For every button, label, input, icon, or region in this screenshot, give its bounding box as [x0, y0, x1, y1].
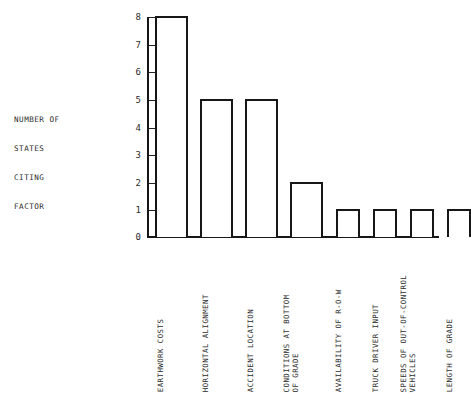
- y-tick-label-4: 4: [136, 123, 141, 132]
- bar-truck-driver-input: [373, 209, 397, 237]
- x-label-line-2: VEHICLES: [408, 274, 417, 392]
- y-tick-label-3: 3: [136, 151, 141, 160]
- x-label-truck-driver-input: TRUCK DRIVER INPUT: [371, 304, 380, 392]
- x-label-line: CONDITIONS AT BOTTOM: [282, 294, 291, 392]
- y-axis-label-line-3: CITING: [14, 173, 100, 183]
- y-axis-label: NUMBER OF STATES CITING FACTOR: [14, 96, 100, 230]
- bar-earthwork-costs: [155, 16, 188, 237]
- x-label-conditions-at-bottom-of-grade: CONDITIONS AT BOTTOM OF GRADE: [282, 294, 300, 392]
- y-tick-label-0: 0: [136, 233, 141, 242]
- y-tick-label-5: 5: [136, 95, 141, 104]
- y-tick-label-2: 2: [136, 178, 141, 187]
- x-label-line: EARTHWORK COSTS: [156, 319, 165, 393]
- bar-availability-of-row: [336, 209, 360, 237]
- x-label-accident-location: ACCIDENT LOCATION: [246, 309, 255, 392]
- y-tick-label-8: 8: [136, 13, 141, 22]
- bar-horizontal-alignment: [200, 99, 233, 237]
- y-axis-label-line-2: STATES: [14, 144, 100, 154]
- y-axis-label-line-4: FACTOR: [14, 202, 100, 212]
- x-axis-labels: EARTHWORK COSTS HORIZONTAL ALIGNMENT ACC…: [147, 240, 447, 392]
- x-label-earthwork-costs: EARTHWORK COSTS: [156, 319, 165, 393]
- x-label-line: TRUCK DRIVER INPUT: [371, 304, 380, 392]
- bar-speeds-of-out-of-control-vehicles: [410, 209, 434, 237]
- x-label-speeds-of-out-of-control-vehicles: SPEEDS OF OUT-OF-CONTROL VEHICLES: [399, 274, 417, 392]
- x-label-availability-of-row: AVAILABILITY OF R-O-W: [334, 289, 343, 392]
- x-label-line: LENGTH OF GRADE: [445, 319, 454, 393]
- x-label-line: ACCIDENT LOCATION: [246, 309, 255, 392]
- y-tick-label-6: 6: [136, 68, 141, 77]
- x-label-length-of-grade: LENGTH OF GRADE: [445, 319, 454, 393]
- plot-area: 8 7 6 5 4 3 2 1 0: [147, 17, 439, 238]
- bar-length-of-grade: [447, 209, 471, 237]
- x-label-line: SPEEDS OF OUT-OF-CONTROL: [399, 274, 408, 392]
- bar-accident-location: [245, 99, 278, 237]
- y-tick-label-7: 7: [136, 40, 141, 49]
- x-label-line-2: OF GRADE: [291, 294, 300, 392]
- bar-conditions-at-bottom-of-grade: [290, 182, 323, 237]
- x-label-horizontal-alignment: HORIZONTAL ALIGNMENT: [201, 294, 210, 392]
- y-tick-label-1: 1: [136, 206, 141, 215]
- y-axis-label-line-1: NUMBER OF: [14, 115, 100, 125]
- x-label-line: HORIZONTAL ALIGNMENT: [201, 294, 210, 392]
- x-label-line: AVAILABILITY OF R-O-W: [334, 289, 343, 392]
